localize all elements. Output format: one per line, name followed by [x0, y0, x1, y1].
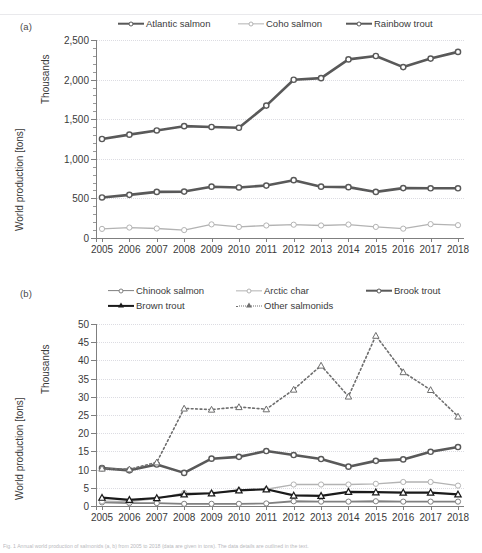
data-point-marker — [373, 332, 379, 338]
x-tick-label: 2008 — [173, 244, 195, 255]
data-point-marker — [126, 497, 132, 503]
x-tick — [321, 506, 322, 510]
data-point-marker — [291, 77, 296, 82]
x-tick-label: 2015 — [365, 512, 387, 523]
y-tick-label: 0 — [83, 233, 89, 244]
data-point-marker — [209, 184, 214, 189]
chart-panel-b: (b) Chinook salmonArctic charBrook trout… — [0, 284, 482, 542]
data-point-marker — [318, 362, 324, 368]
legend-item-rainbow-trout[interactable]: Rainbow trout — [346, 18, 433, 29]
data-point-marker — [345, 393, 351, 399]
y-tick-label: 500 — [72, 193, 89, 204]
legend-item-other-salmonids[interactable]: Other salmonids — [236, 300, 333, 311]
series-rainbow-trout — [99, 178, 460, 200]
data-point-marker — [318, 456, 323, 461]
x-tick — [157, 238, 158, 242]
data-point-marker — [373, 53, 378, 58]
x-tick — [376, 506, 377, 510]
series-brook-trout — [99, 444, 460, 475]
data-point-marker — [154, 495, 160, 501]
legend-item-arctic-char[interactable]: Arctic char — [236, 285, 366, 296]
data-point-marker — [427, 387, 433, 393]
x-tick — [184, 238, 185, 242]
data-point-marker — [401, 226, 406, 231]
y-tick-label: 50 — [78, 319, 89, 330]
data-point-marker — [428, 449, 433, 454]
legend-label: Arctic char — [264, 285, 309, 296]
legend-panel-a: Atlantic salmonCoho salmonRainbow trout — [118, 18, 468, 29]
x-tick-label: 2013 — [310, 512, 332, 523]
data-point-marker — [346, 57, 351, 62]
data-point-marker — [345, 489, 351, 495]
data-point-marker — [263, 406, 269, 412]
data-point-marker — [182, 124, 187, 129]
y-tick-label: 40 — [78, 355, 89, 366]
data-point-marker — [455, 491, 461, 497]
legend-item-coho-salmon[interactable]: Coho salmon — [238, 18, 346, 29]
legend-label: Other salmonids — [264, 300, 333, 311]
x-tick-label: 2018 — [447, 512, 469, 523]
data-point-marker — [264, 103, 269, 108]
y-tick-label: 2,000 — [64, 74, 89, 85]
x-tick-label: 2017 — [419, 512, 441, 523]
x-tick-label: 2010 — [228, 244, 250, 255]
x-tick-label: 2012 — [283, 244, 305, 255]
x-tick-label: 2014 — [337, 244, 359, 255]
x-tick-label: 2007 — [146, 512, 168, 523]
y-tick-label: 20 — [78, 428, 89, 439]
panel-b-label: (b) — [20, 288, 32, 299]
x-tick-label: 2006 — [118, 512, 140, 523]
x-tick-label: 2015 — [365, 244, 387, 255]
x-tick — [102, 238, 103, 242]
x-tick-label: 2009 — [200, 512, 222, 523]
legend-item-brook-trout[interactable]: Brook trout — [366, 285, 440, 296]
data-point-marker — [401, 64, 406, 69]
x-tick-label: 2016 — [392, 244, 414, 255]
x-tick — [266, 238, 267, 242]
legend-item-atlantic-salmon[interactable]: Atlantic salmon — [118, 18, 238, 29]
figure-caption: Fig. 1 Annual world production of salmon… — [3, 543, 479, 553]
panel-a-y-axis-units: Thousands — [40, 55, 51, 104]
legend-panel-b: Chinook salmonArctic charBrook troutBrow… — [108, 285, 474, 311]
data-point-marker — [373, 499, 378, 504]
legend-marker-icon — [236, 301, 262, 311]
legend-item-brown-trout[interactable]: Brown trout — [108, 300, 236, 311]
x-tick — [212, 238, 213, 242]
data-point-marker — [236, 501, 241, 506]
data-point-marker — [455, 483, 460, 488]
data-point-marker — [291, 499, 296, 504]
x-tick — [157, 506, 158, 510]
data-point-marker — [264, 183, 269, 188]
series-line — [102, 336, 458, 470]
data-point-marker — [455, 223, 460, 228]
data-point-marker — [346, 499, 351, 504]
data-point-marker — [236, 125, 241, 130]
x-tick — [458, 506, 459, 510]
panel-b-y-axis-units: Thousands — [40, 345, 51, 394]
data-point-marker — [318, 223, 323, 228]
data-point-marker — [318, 493, 324, 499]
legend-marker-icon — [236, 286, 262, 296]
x-tick — [403, 506, 404, 510]
data-point-marker — [346, 464, 351, 469]
data-point-marker — [346, 222, 351, 227]
x-tick — [348, 238, 349, 242]
legend-label: Coho salmon — [266, 18, 322, 29]
panel-a-y-axis-title: World production [tons] — [14, 128, 25, 231]
x-tick-label: 2011 — [256, 244, 278, 255]
legend-label: Atlantic salmon — [146, 18, 210, 29]
legend-item-chinook-salmon[interactable]: Chinook salmon — [108, 285, 236, 296]
x-tick-label: 2007 — [146, 244, 168, 255]
data-point-marker — [263, 486, 269, 492]
data-point-marker — [290, 492, 296, 498]
x-tick-label: 2012 — [283, 512, 305, 523]
data-point-marker — [318, 499, 323, 504]
x-tick — [458, 238, 459, 242]
data-point-marker — [264, 223, 269, 228]
data-point-marker — [236, 224, 241, 229]
x-tick-label: 2011 — [256, 512, 278, 523]
x-tick — [348, 506, 349, 510]
data-point-marker — [428, 186, 433, 191]
x-tick — [321, 238, 322, 242]
data-point-marker — [428, 479, 433, 484]
